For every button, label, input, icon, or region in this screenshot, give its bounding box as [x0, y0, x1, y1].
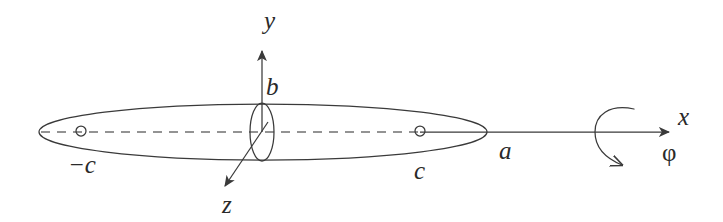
label-focus-right-c: c	[414, 158, 425, 183]
label-focus-left-negative-c: −c	[68, 152, 96, 177]
focus-left-marker	[76, 126, 86, 136]
label-semi-minor-axis-b: b	[266, 74, 279, 99]
spheroid-diagram-svg	[0, 0, 723, 222]
label-x-axis: x	[678, 104, 689, 129]
rotation-arc-phi	[595, 108, 634, 165]
figure-canvas: y b z −c c a x φ	[0, 0, 723, 222]
label-z-axis: z	[222, 192, 232, 217]
label-y-axis: y	[264, 8, 275, 33]
label-rotation-angle-phi: φ	[662, 140, 676, 165]
z-axis-line	[225, 122, 268, 186]
label-semi-major-axis-a: a	[499, 138, 512, 163]
focus-right-marker	[415, 126, 425, 136]
